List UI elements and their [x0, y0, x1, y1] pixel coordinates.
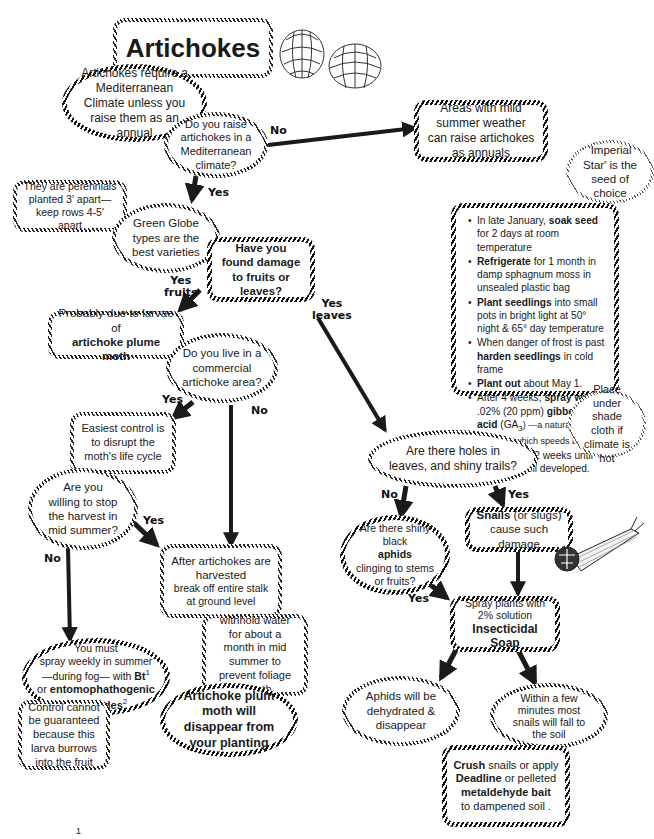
- edge-label-no: No: [270, 125, 287, 137]
- edge-label-yes-leaves: Yes leaves: [312, 298, 352, 321]
- spray-weekly-line2: spray weekly in summer: [40, 655, 153, 668]
- seed-step-bold: Plant out: [477, 378, 521, 389]
- footnote-ref-1: 1: [145, 668, 149, 677]
- question-stop-harvest-text: Are you willing to stop the harvest in m…: [46, 480, 120, 538]
- spray-weekly-line3: —during fog— with Bt1: [42, 668, 150, 683]
- aphids-dehydrated-result: Aphids will be dehydrated & disappear: [342, 676, 460, 746]
- easiest-control-note: Easiest control is to disrupt the moth's…: [70, 412, 176, 474]
- seed-step-bold: harden seedlings: [477, 351, 561, 362]
- question-mediterranean-text: Do you raise artichokes in a Mediterrane…: [180, 118, 252, 173]
- edge-label-no: No: [44, 553, 61, 565]
- plume-moth-note: Probably due to larvae of artichoke plum…: [48, 311, 184, 359]
- after-harvest-note: After artichokes are harvested break off…: [160, 544, 282, 618]
- perennials-note: They are perennials planted 3' apart— ke…: [13, 180, 127, 232]
- mild-summer-note: Areas with mild summer weather can raise…: [414, 100, 548, 162]
- crush-text: or pelleted: [505, 772, 556, 784]
- mild-summer-text: Areas with mild summer weather can raise…: [425, 101, 537, 161]
- metaldehyde-bold: metaldehyde bait: [461, 786, 551, 800]
- edge-label-no: No: [251, 405, 268, 417]
- spray-weekly-or: or: [37, 683, 47, 695]
- edge-label-yes-fruits-text: Yes fruits: [164, 274, 198, 299]
- question-aphids-post: clinging to stems or fruits?: [355, 562, 435, 588]
- aphids-dehydrated-text: Aphids will be dehydrated & disappear: [360, 689, 442, 732]
- edge-label-yes-leaves-text: Yes leaves: [312, 297, 352, 322]
- seed-step: Refrigerate for 1 month in damp sphagnum…: [468, 255, 606, 295]
- crush-line1: Crush snails or apply: [453, 759, 558, 773]
- easiest-control-text: Easiest control is to disrupt the moth's…: [80, 422, 166, 463]
- question-aphids-pre: Are there shiny black: [355, 522, 435, 548]
- page-title: Artichokes: [126, 32, 260, 65]
- edge-label-yes: Yes: [208, 187, 229, 199]
- crush-text: to dampened soil .: [461, 800, 551, 814]
- snails-fall-text: Within a few minutes most snails will fa…: [506, 692, 592, 740]
- seed-step: Plant seedlings into small pots in brigh…: [468, 296, 606, 336]
- green-globe-note: Green Globe types are the best varieties: [112, 203, 220, 273]
- no-guarantee-text: Control cannot be guaranteed because thi…: [28, 701, 100, 770]
- seed-step-text: about May 1.: [523, 378, 582, 389]
- crush-snails-action: Crush snails or apply Deadline or pellet…: [442, 745, 570, 827]
- question-stop-harvest: Are you willing to stop the harvest in m…: [28, 468, 138, 550]
- crush-bold: Crush: [453, 759, 485, 771]
- seed-step: When danger of frost is past harden seed…: [468, 336, 606, 376]
- soap-bold: Insecticidal Soap: [461, 623, 549, 649]
- question-holes: Are there holes in leaves, and shiny tra…: [368, 430, 538, 488]
- seed-step-bold: Refrigerate: [477, 256, 531, 267]
- edge-label-yes: Yes: [162, 394, 183, 406]
- bt-term: Bt: [134, 670, 145, 682]
- imperial-star-note: 'Imperial Star' is the seed of choice: [566, 140, 654, 204]
- footnote-marker: 1: [76, 826, 81, 836]
- spray-weekly-line3-text: —during fog— with: [42, 670, 131, 682]
- question-mediterranean: Do you raise artichokes in a Mediterrane…: [164, 112, 268, 178]
- plume-moth-line2: artichoke plume moth: [58, 335, 174, 364]
- imperial-star-text: 'Imperial Star' is the seed of choice: [577, 143, 643, 201]
- question-damage-text: Have you found damage to fruits or leave…: [218, 241, 304, 299]
- seed-step-bold: Plant seedlings: [477, 297, 552, 308]
- seed-step-text: In late January,: [477, 215, 546, 226]
- no-guarantee-note: Control cannot be guaranteed because thi…: [18, 700, 110, 770]
- edge-label-no: No: [381, 489, 398, 501]
- question-aphids: Are there shiny black aphids clinging to…: [340, 515, 450, 595]
- snails-bold: Snails: [476, 509, 510, 521]
- edge-label-yes: Yes: [143, 515, 164, 527]
- seed-step: In late January, soak seed for 2 days at…: [468, 214, 606, 254]
- edge-label-yes: Yes: [408, 593, 429, 605]
- edge-label-yes-fruits: Yes fruits: [164, 275, 198, 298]
- question-aphids-bold: aphids: [378, 548, 412, 561]
- moth-disappear-result: Artichoke plum moth will disappear from …: [160, 683, 298, 757]
- footnote-ref-2: 2: [123, 697, 127, 706]
- seed-step-text: for 2 days at room temperature: [477, 228, 559, 252]
- after-harvest-line1: After artichokes are harvested: [170, 554, 272, 583]
- seed-step-text: When danger of frost is past: [477, 337, 604, 348]
- perennials-text: They are perennials planted 3' apart— ke…: [23, 180, 117, 233]
- snails-fall-result: Within a few minutes most snails will fa…: [490, 683, 608, 749]
- shade-cloth-note: Place under shade cloth if climate is ho…: [568, 390, 646, 458]
- deadline-bold: Deadline: [456, 772, 502, 784]
- crush-line2: Deadline or pelleted: [456, 772, 556, 786]
- seed-step-text: (GA: [500, 419, 518, 430]
- insecticidal-soap-action: Spray plants with 2% solution Insecticid…: [450, 596, 560, 652]
- moth-disappear-text: Artichoke plum moth will disappear from …: [179, 689, 279, 752]
- question-holes-text: Are there holes in leaves, and shiny tra…: [388, 444, 518, 474]
- green-globe-text: Green Globe types are the best varieties: [128, 216, 204, 259]
- question-damage: Have you found damage to fruits or leave…: [207, 237, 315, 302]
- shade-cloth-text: Place under shade cloth if climate is ho…: [579, 383, 635, 466]
- after-harvest-line2: break off entire stalk at ground level: [170, 582, 272, 608]
- artichoke-icon: [272, 24, 332, 84]
- question-commercial-text: Do you live in a commercial artichoke ar…: [182, 346, 262, 389]
- plume-moth-line1: Probably due to larvae of: [58, 306, 174, 335]
- seed-steps-box: In late January, soak seed for 2 days at…: [451, 203, 619, 396]
- spray-weekly-line1: You must: [74, 642, 117, 655]
- soap-line1: Spray plants with 2% solution: [461, 598, 549, 621]
- seed-step-text: After 4 weeks,: [477, 392, 542, 403]
- crush-text: snails or apply: [488, 759, 558, 771]
- artichoke-icon: [326, 40, 384, 92]
- snail-icon: [545, 515, 645, 575]
- seed-step-bold: soak seed: [549, 215, 598, 226]
- edge-label-yes: Yes: [508, 489, 529, 501]
- seed-step-text: .02% (20 ppm): [477, 406, 544, 417]
